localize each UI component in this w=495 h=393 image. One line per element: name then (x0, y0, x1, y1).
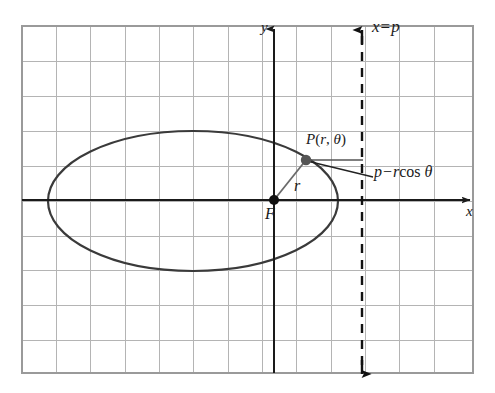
directrix-label: x=p (372, 18, 400, 35)
directrix-var: x (372, 17, 380, 36)
polar-conic-figure: y x F r x=p P(r, θ) p−rcos θ (0, 0, 495, 393)
figure-canvas (0, 0, 495, 393)
point-p-label: P(r, θ) (306, 132, 346, 147)
focus-point-dot (269, 195, 279, 205)
distance-minus: − (382, 163, 393, 180)
focus-label: F (265, 206, 275, 222)
distance-label: p−rcos θ (374, 164, 432, 180)
point-p-theta: θ (334, 131, 341, 147)
point-p-dot (301, 155, 311, 165)
point-p-comma: , (326, 131, 334, 147)
distance-p: p (374, 163, 382, 180)
point-p-name: P (306, 131, 315, 147)
point-p-close-paren: ) (341, 131, 346, 147)
distance-theta: θ (425, 163, 433, 180)
x-axis-label: x (466, 204, 473, 219)
distance-cos: cos (399, 163, 420, 180)
directrix-param: p (391, 17, 400, 36)
y-axis-label: y (261, 20, 268, 35)
radius-label: r (294, 178, 300, 194)
directrix-equals: = (380, 17, 392, 36)
